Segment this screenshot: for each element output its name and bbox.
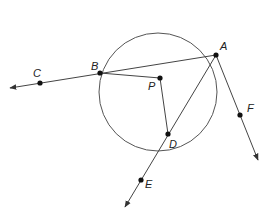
circle-p (99, 33, 217, 151)
label-a: A (219, 40, 227, 52)
point-d (165, 131, 170, 136)
label-p: P (148, 80, 156, 92)
label-b: B (91, 60, 98, 72)
segment-pd (160, 78, 168, 134)
point-p (157, 75, 162, 80)
point-c (37, 80, 42, 85)
label-c: C (33, 67, 41, 79)
label-e: E (145, 178, 153, 190)
segment-bp (100, 73, 160, 78)
label-d: D (169, 138, 177, 150)
point-f (237, 112, 242, 117)
label-f: F (247, 102, 255, 114)
geometry-diagram: A B C P D E F (0, 0, 268, 219)
point-a (213, 52, 218, 57)
point-e (138, 177, 143, 182)
